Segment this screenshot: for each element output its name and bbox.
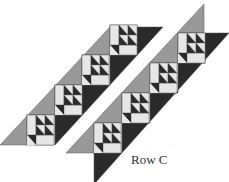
row-label: Row C	[131, 152, 167, 168]
quilt-row-diagram	[0, 0, 229, 182]
